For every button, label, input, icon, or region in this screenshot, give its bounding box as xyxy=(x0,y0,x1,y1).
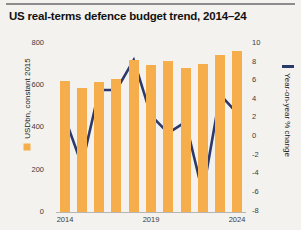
x-axis-tick-2024: 2024 xyxy=(222,215,252,224)
bar-legend-swatch-icon xyxy=(24,144,31,151)
x-axis-tick-2014: 2014 xyxy=(50,215,80,224)
y-axis-tick-right-1: 8 xyxy=(252,57,274,66)
y-axis-tick-left-0: 0 xyxy=(22,207,44,216)
bar-2019 xyxy=(146,65,156,212)
bar-2023 xyxy=(215,55,225,212)
x-axis-tick-2019: 2019 xyxy=(136,215,166,224)
bar-2014 xyxy=(60,81,70,212)
bar-2017 xyxy=(111,79,121,212)
y-axis-tick-right-6: -2 xyxy=(252,150,274,159)
y-axis-tick-right-7: -4 xyxy=(252,168,274,177)
left-axis-legend: USDbn, constant 2015 xyxy=(23,30,32,180)
y-axis-tick-right-0: 10 xyxy=(252,38,274,47)
bar-2018 xyxy=(129,60,139,212)
x-axis-line xyxy=(56,212,246,213)
bar-2016 xyxy=(94,82,104,212)
y-axis-tick-right-5: 0 xyxy=(252,131,274,140)
y-axis-tick-right-2: 6 xyxy=(252,75,274,84)
line-legend-swatch-icon xyxy=(282,65,294,68)
page-title: US real-terms defence budget trend, 2014… xyxy=(9,10,295,23)
chart-page: US real-terms defence budget trend, 2014… xyxy=(0,0,301,230)
right-axis-legend: Year-on-year % change xyxy=(282,36,294,186)
y-axis-tick-right-3: 4 xyxy=(252,94,274,103)
left-axis-label: USDbn, constant 2015 xyxy=(23,58,32,139)
y-axis-tick-right-8: -6 xyxy=(252,187,274,196)
y-axis-tick-right-4: 2 xyxy=(252,112,274,121)
top-divider xyxy=(6,3,295,5)
bar-2021 xyxy=(181,68,191,212)
bar-2022 xyxy=(198,64,208,212)
bar-2020 xyxy=(163,61,173,212)
bar-2015 xyxy=(77,88,87,212)
bar-2024 xyxy=(232,51,242,212)
y-axis-tick-right-9: -8 xyxy=(252,206,274,215)
plot-area xyxy=(56,43,246,212)
right-axis-label: Year-on-year % change xyxy=(284,73,293,157)
